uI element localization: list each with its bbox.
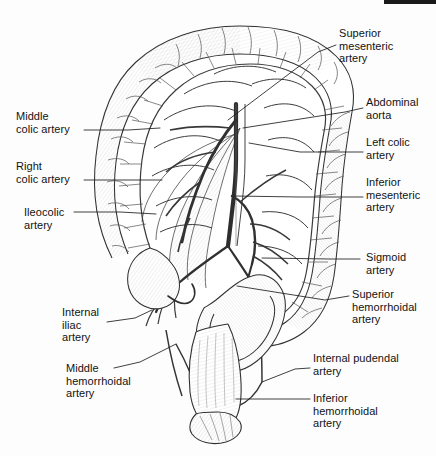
label-ileocolic-artery: Ileocolic artery <box>24 206 64 231</box>
label-sigmoid-artery: Sigmoid artery <box>366 251 406 276</box>
label-inferior-mesenteric-artery: Inferior mesenteric artery <box>366 176 420 214</box>
label-internal-iliac-artery: Internal iliac artery <box>62 306 99 344</box>
label-right-colic-artery: Right colic artery <box>16 160 70 185</box>
label-inferior-hemorrhoidal-artery: Inferior hemorrhoidal artery <box>313 392 378 430</box>
label-superior-mesenteric-artery: Superior mesenteric artery <box>339 27 393 65</box>
leader-line-internal-pudendal-artery <box>262 368 310 382</box>
leader-line-internal-iliac-artery <box>107 310 152 322</box>
label-middle-hemorrhoidal-artery: Middle hemorrhoidal artery <box>66 362 131 400</box>
label-middle-colic-artery: Middle colic artery <box>16 110 70 135</box>
label-internal-pudendal-artery: Internal pudendal artery <box>313 352 399 377</box>
label-left-colic-artery: Left colic artery <box>366 136 410 161</box>
label-abdominal-aorta: Abdominal aorta <box>366 96 418 121</box>
label-superior-hemorrhoidal-artery: Superior hemorrhoidal artery <box>352 288 417 326</box>
